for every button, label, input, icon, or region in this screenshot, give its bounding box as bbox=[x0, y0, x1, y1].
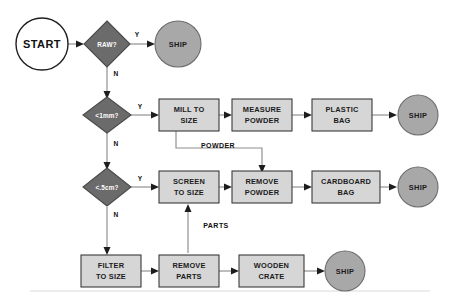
start-label: START bbox=[23, 38, 61, 50]
arrowhead-filter-to-removeparts bbox=[151, 268, 159, 275]
node-ship-cardboard[interactable]: SHIP bbox=[398, 167, 438, 207]
filter-to-size-label-1: FILTER bbox=[98, 261, 125, 270]
filter-to-size-label-2: TO SIZE bbox=[96, 272, 126, 281]
decision-5cm-label: <.5cm? bbox=[95, 184, 118, 191]
screen-to-size-label-1: SCREEN bbox=[173, 177, 205, 186]
arrowhead-cm-yes bbox=[151, 184, 159, 191]
arrowhead-crate-to-ship bbox=[317, 268, 325, 275]
screen-to-size-label-2: TO SIZE bbox=[174, 188, 204, 197]
arrowhead-mm-yes bbox=[151, 112, 159, 119]
arrowhead-removepowder-to-cardboard bbox=[304, 184, 312, 191]
ship-cardboard-label: SHIP bbox=[409, 183, 427, 192]
edge-label-raw-no: N bbox=[113, 70, 118, 77]
plastic-bag-label-2: BAG bbox=[333, 116, 350, 125]
node-decision-raw[interactable]: RAW? bbox=[84, 21, 130, 67]
ship-raw-label: SHIP bbox=[169, 40, 187, 49]
arrowhead-cardboard-to-ship bbox=[389, 184, 397, 191]
arrowhead-plastic-to-ship bbox=[389, 112, 397, 119]
decision-raw-label: RAW? bbox=[97, 41, 116, 48]
measure-powder-label-2: POWDER bbox=[245, 116, 280, 125]
arrowhead-removeparts-to-crate bbox=[231, 268, 239, 275]
node-wooden-crate[interactable]: WOODEN CRATE bbox=[239, 255, 304, 287]
arrowhead-start-to-raw bbox=[76, 41, 84, 48]
node-remove-powder[interactable]: REMOVE POWDER bbox=[232, 171, 292, 203]
remove-powder-label-2: POWDER bbox=[245, 188, 280, 197]
wooden-crate-label-2: CRATE bbox=[259, 272, 285, 281]
node-measure-powder[interactable]: MEASURE POWDER bbox=[232, 99, 292, 131]
arrowhead-mill-to-measure bbox=[224, 112, 232, 119]
node-ship-raw[interactable]: SHIP bbox=[155, 21, 201, 67]
mill-to-size-label-1: MILL TO bbox=[174, 105, 205, 114]
node-decision-5cm[interactable]: <.5cm? bbox=[83, 168, 131, 206]
node-cardboard-bag[interactable]: CARDBOARD BAG bbox=[312, 171, 380, 203]
node-decision-1mm[interactable]: <1mm? bbox=[83, 97, 131, 133]
node-ship-plastic[interactable]: SHIP bbox=[398, 95, 438, 135]
flow-label-parts: PARTS bbox=[203, 222, 228, 229]
node-screen-to-size[interactable]: SCREEN TO SIZE bbox=[159, 171, 219, 203]
remove-powder-label-1: REMOVE bbox=[245, 177, 278, 186]
flowchart-svg: START RAW? Y N SHIP <1mm? Y N MILL TO SI… bbox=[0, 0, 456, 306]
ship-plastic-label: SHIP bbox=[409, 111, 427, 120]
arrowhead-parts-route bbox=[185, 204, 192, 212]
cardboard-bag-label-2: BAG bbox=[337, 188, 354, 197]
edge-label-raw-yes: Y bbox=[135, 31, 140, 38]
measure-powder-label-1: MEASURE bbox=[243, 105, 281, 114]
flow-label-powder: POWDER bbox=[201, 142, 235, 149]
node-plastic-bag[interactable]: PLASTIC BAG bbox=[312, 99, 372, 131]
mill-to-size-label-2: SIZE bbox=[180, 116, 197, 125]
arrowhead-cm-no bbox=[104, 247, 111, 255]
wooden-crate-label-1: WOODEN bbox=[254, 261, 289, 270]
edge-label-mm-yes: Y bbox=[138, 103, 143, 110]
node-mill-to-size[interactable]: MILL TO SIZE bbox=[159, 99, 219, 131]
plastic-bag-label-1: PLASTIC bbox=[325, 105, 358, 114]
decision-1mm-label: <1mm? bbox=[95, 112, 118, 119]
cardboard-bag-label-1: CARDBOARD bbox=[321, 177, 372, 186]
node-filter-to-size[interactable]: FILTER TO SIZE bbox=[81, 255, 141, 287]
arrowhead-measure-to-plastic bbox=[304, 112, 312, 119]
ship-crate-label: SHIP bbox=[336, 267, 354, 276]
node-remove-parts[interactable]: REMOVE PARTS bbox=[159, 255, 219, 287]
remove-parts-label-2: PARTS bbox=[176, 272, 202, 281]
arrowhead-screen-to-removepowder bbox=[224, 184, 232, 191]
edge-label-cm-no: N bbox=[113, 211, 118, 218]
flowchart-canvas: START RAW? Y N SHIP <1mm? Y N MILL TO SI… bbox=[0, 0, 456, 306]
node-start[interactable]: START bbox=[16, 18, 68, 70]
edge-label-cm-yes: Y bbox=[138, 175, 143, 182]
node-ship-crate[interactable]: SHIP bbox=[325, 251, 365, 291]
remove-parts-label-1: REMOVE bbox=[172, 261, 205, 270]
arrowhead-raw-yes bbox=[147, 41, 155, 48]
edge-label-mm-no: N bbox=[113, 140, 118, 147]
